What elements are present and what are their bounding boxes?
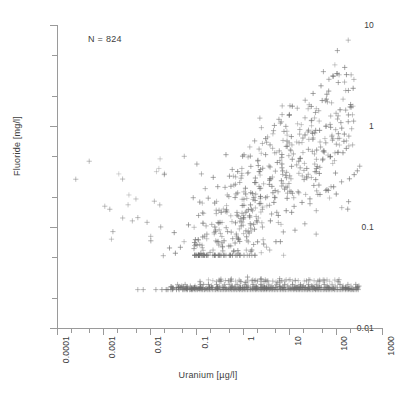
x-axis-title: Uranium [µg/l]	[0, 370, 416, 380]
x-tick-minor	[368, 328, 369, 333]
x-tick-label: 0.01	[153, 336, 163, 353]
x-tick-minor	[275, 328, 276, 333]
x-tick-label: 100	[339, 336, 349, 351]
x-tick-minor	[229, 328, 230, 333]
x-tick-major	[336, 328, 337, 335]
x-tick-label: 1000	[386, 336, 396, 356]
x-tick-minor	[136, 328, 137, 333]
y-tick-minor	[52, 55, 57, 56]
x-tick-minor	[71, 328, 72, 333]
y-tick-minor	[52, 197, 57, 198]
x-tick-minor	[350, 328, 351, 333]
x-tick-major	[289, 328, 290, 335]
x-tick-minor	[117, 328, 118, 333]
y-tick-minor	[52, 156, 57, 157]
x-tick-minor	[210, 328, 211, 333]
y-tick-label: 10	[364, 20, 374, 30]
x-tick-minor	[164, 328, 165, 333]
x-tick-minor	[89, 328, 90, 333]
y-tick-minor	[52, 96, 57, 97]
y-tick-major	[50, 227, 57, 228]
y-tick-minor	[52, 257, 57, 258]
x-tick-label: 0.001	[107, 336, 117, 358]
x-tick-major	[103, 328, 104, 335]
x-tick-label: 0.1	[200, 336, 210, 348]
y-tick-label: 1	[369, 121, 374, 131]
x-tick-minor	[322, 328, 323, 333]
x-axis-line	[57, 328, 383, 329]
x-tick-major	[150, 328, 151, 335]
scatter-plot-figure: N = 824 Fluoride [mg/l] Uranium [µg/l] 0…	[0, 0, 416, 398]
x-tick-minor	[303, 328, 304, 333]
plot-area: 0.010.1110 0.00010.0010.010.11101001000	[57, 25, 382, 328]
y-tick-major	[50, 25, 57, 26]
y-tick-major	[50, 328, 57, 329]
y-tick-major	[50, 126, 57, 127]
y-tick-minor	[52, 298, 57, 299]
x-tick-major	[57, 328, 58, 335]
scatter-svg	[57, 25, 382, 328]
x-tick-label: 10	[293, 336, 303, 346]
x-tick-label: 1	[246, 336, 256, 341]
y-tick-label: 0.1	[362, 222, 374, 232]
x-tick-label: 0.0001	[61, 336, 71, 363]
x-tick-major	[243, 328, 244, 335]
x-tick-minor	[257, 328, 258, 333]
x-tick-major	[382, 328, 383, 335]
x-tick-minor	[182, 328, 183, 333]
y-axis-title: Fluoride [mg/l]	[12, 116, 22, 176]
x-tick-major	[196, 328, 197, 335]
y-tick-label: 0.01	[357, 323, 374, 333]
scatter-points-layer	[57, 25, 382, 328]
